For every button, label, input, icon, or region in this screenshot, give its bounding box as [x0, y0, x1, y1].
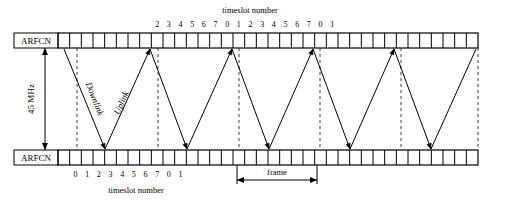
gsm-timeslot-diagram: timeslot number 2345670123456701 Downlin… [0, 0, 506, 205]
frame-arrow-right [310, 177, 317, 183]
top-timeslot-number: 7 [214, 20, 218, 29]
separation-arrow-down [42, 143, 48, 150]
frame-label: frame [267, 167, 287, 177]
uplink-path [431, 49, 476, 149]
top-timeslot-number: 2 [155, 20, 159, 29]
downlink-path-head [265, 143, 269, 149]
diagram-canvas: timeslot number 2345670123456701 Downlin… [0, 0, 506, 205]
top-timeslot-number: 0 [225, 20, 229, 29]
bottom-timeslot-number: 2 [97, 170, 101, 179]
downlink-path [150, 49, 187, 149]
downlink-path [232, 49, 269, 149]
frame-arrow-left [237, 177, 244, 183]
top-timeslot-number: 5 [190, 20, 194, 29]
top-timeslot-number: 0 [319, 20, 323, 29]
top-timeslot-number: 6 [202, 20, 206, 29]
bottom-timeslot-number: 3 [109, 170, 113, 179]
top-timeslot-number: 3 [260, 20, 264, 29]
top-timeslot-number: 7 [307, 20, 311, 29]
uplink-label: Uplink [112, 89, 132, 116]
uplink-path-head [309, 49, 313, 55]
uplink-path-head [228, 49, 232, 55]
top-timeslot-caption: timeslot number [222, 5, 278, 15]
arfcn-bottom-label: ARFCN [21, 153, 52, 163]
downlink-label: Downlink [83, 80, 106, 118]
separation-arrow-up [42, 48, 48, 55]
bottom-timeslot-number: 0 [74, 170, 78, 179]
bottom-timeslot-number: 1 [85, 170, 89, 179]
uplink-path [350, 49, 394, 149]
bottom-timeslot-number: 7 [155, 170, 159, 179]
top-timeslot-number: 4 [272, 20, 276, 29]
uplink-path-head [390, 49, 394, 55]
top-timeslot-number: 5 [284, 20, 288, 29]
downlink-path-head [346, 143, 350, 149]
uplink-path [269, 49, 313, 149]
downlink-path-head [183, 143, 187, 149]
downlink-path-head [101, 143, 105, 149]
frequency-separation-label: 45 MHz [26, 84, 36, 114]
top-timeslot-number: 3 [167, 20, 171, 29]
bottom-timeslot-number: 4 [120, 170, 124, 179]
top-timeslot-number: 4 [179, 20, 183, 29]
uplink-path-head [146, 49, 150, 55]
top-timeslot-number: 2 [249, 20, 253, 29]
downlink-path-head [427, 143, 431, 149]
downlink-path [394, 49, 431, 149]
top-timeslot-number: 6 [295, 20, 299, 29]
bottom-timeslot-number: 1 [179, 170, 183, 179]
uplink-path [187, 49, 232, 149]
bottom-timeslot-number: 0 [167, 170, 171, 179]
bottom-timeslot-number: 6 [144, 170, 148, 179]
bottom-timeslot-caption: timeslot number [108, 185, 164, 195]
bottom-timeslot-number: 5 [132, 170, 136, 179]
top-timeslot-number: 1 [330, 20, 334, 29]
downlink-path [313, 49, 350, 149]
top-timeslot-number: 1 [237, 20, 241, 29]
arfcn-top-label: ARFCN [21, 36, 52, 46]
